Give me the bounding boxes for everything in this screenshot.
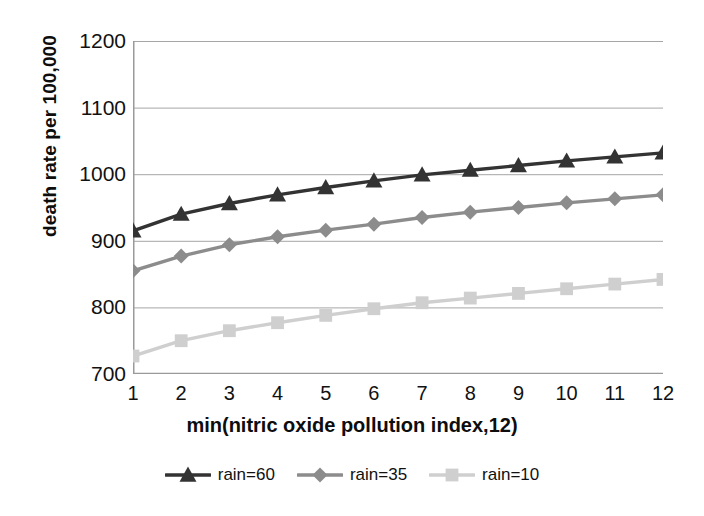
x-axis-tick-label: 5 [303, 381, 349, 405]
chart-legend: rain=60rain=35rain=10 [0, 466, 704, 484]
data-point-marker-diamond [415, 210, 430, 225]
data-point-marker-diamond [312, 468, 327, 483]
legend-item-rain-35[interactable]: rain=35 [297, 466, 407, 484]
x-axis-title: min(nitric oxide pollution index,12) [0, 414, 704, 437]
data-point-marker-square [446, 469, 459, 482]
data-point-marker-diamond [559, 195, 574, 210]
data-point-marker-diamond [366, 217, 381, 232]
x-axis-tick-label: 7 [399, 381, 445, 405]
data-point-marker-diamond [133, 263, 141, 278]
data-point-marker-diamond [174, 249, 189, 264]
data-point-marker-square [175, 334, 188, 347]
x-axis-tick-label: 6 [351, 381, 397, 405]
data-point-marker-diamond [511, 200, 526, 215]
data-point-marker-diamond [463, 205, 478, 220]
chart-series-rain-35 [133, 187, 663, 278]
legend-swatch-square-icon [429, 466, 475, 484]
y-axis-tick-label: 1000 [58, 163, 126, 184]
data-point-marker-diamond [270, 229, 285, 244]
data-point-marker-diamond [222, 237, 237, 252]
legend-item-rain-60[interactable]: rain=60 [165, 466, 275, 484]
data-point-marker-square [608, 278, 621, 291]
chart-container: death rate per 100,000 12001100100090080… [0, 0, 704, 516]
x-axis-tick-label: 12 [640, 381, 686, 405]
x-axis-tick-labels: 123456789101112 [0, 381, 704, 409]
data-point-marker-diamond [656, 187, 664, 202]
legend-item-rain-10[interactable]: rain=10 [429, 466, 539, 484]
data-point-marker-square [657, 273, 663, 286]
plot-area [133, 41, 663, 374]
data-point-marker-square [223, 324, 236, 337]
data-point-marker-square [464, 292, 477, 305]
data-point-marker-square [133, 350, 139, 363]
x-axis-tick-label: 3 [206, 381, 252, 405]
legend-swatch-triangle-icon [165, 466, 211, 484]
data-point-marker-square [416, 296, 429, 309]
y-axis-tick-label: 800 [58, 296, 126, 317]
series-line [133, 279, 663, 356]
y-axis-tick-label: 900 [58, 230, 126, 251]
x-axis-tick-label: 1 [110, 381, 156, 405]
x-axis-tick-label: 2 [158, 381, 204, 405]
x-axis-tick-label: 11 [592, 381, 638, 405]
chart-series-rain-10 [133, 273, 663, 362]
data-point-marker-square [271, 316, 284, 329]
chart-plot-svg [133, 41, 663, 374]
x-axis-tick-label: 9 [495, 381, 541, 405]
legend-label: rain=60 [218, 466, 275, 484]
chart-series-rain-60 [133, 144, 663, 237]
legend-swatch-diamond-icon [297, 466, 343, 484]
y-axis-tick-label: 1200 [58, 30, 126, 51]
data-point-marker-diamond [318, 223, 333, 238]
x-axis-tick-label: 10 [544, 381, 590, 405]
data-point-marker-square [368, 302, 381, 315]
x-axis-tick-label: 4 [255, 381, 301, 405]
data-point-marker-square [512, 287, 525, 300]
data-point-marker-diamond [607, 191, 622, 206]
legend-label: rain=35 [350, 466, 407, 484]
y-axis-tick-labels: 120011001000900800700 [46, 0, 126, 516]
data-point-marker-square [319, 309, 332, 322]
x-axis-tick-label: 8 [447, 381, 493, 405]
data-point-marker-square [560, 282, 573, 295]
legend-label: rain=10 [482, 466, 539, 484]
y-axis-tick-label: 1100 [58, 97, 126, 118]
